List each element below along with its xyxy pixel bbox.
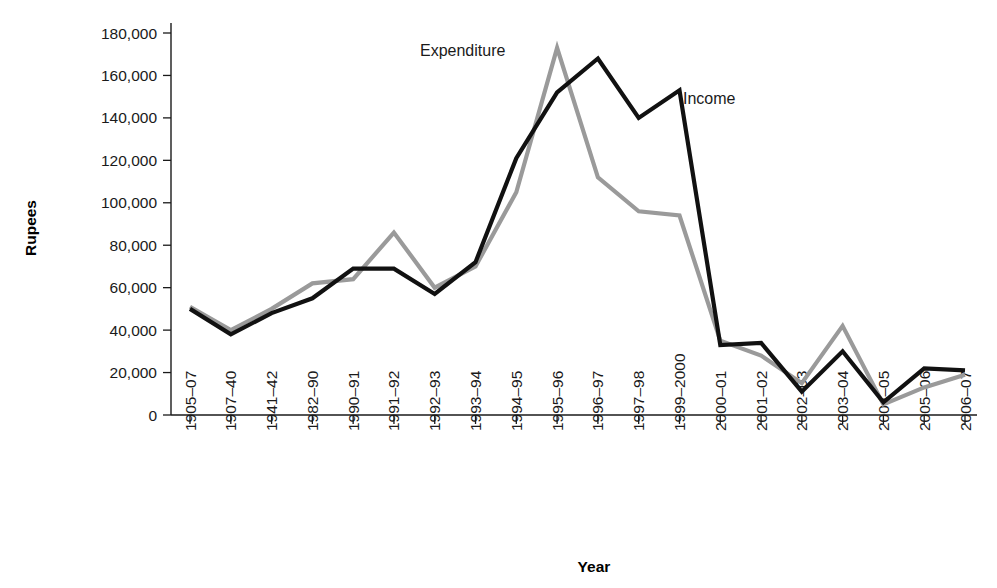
x-tick-label: 1999–2000	[671, 353, 688, 431]
x-tick-label: 1905–07	[182, 371, 199, 431]
y-tick-label: 120,000	[101, 152, 157, 169]
chart-canvas: 020,00040,00060,00080,000100,000120,0001…	[0, 0, 997, 588]
x-axis: 1905–071907–401941–421982–901990–911991–…	[171, 353, 977, 431]
x-tick-label: 1994–95	[508, 371, 525, 431]
x-tick-label: 1991–92	[385, 371, 402, 431]
y-tick-label: 20,000	[110, 364, 158, 381]
x-tick-label: 2003–04	[834, 370, 851, 431]
y-tick-label: 40,000	[110, 322, 158, 339]
y-tick-label: 100,000	[101, 194, 157, 211]
x-tick-label: 1992–93	[426, 371, 443, 431]
y-axis-title: Rupees	[22, 200, 39, 256]
y-tick-label: 160,000	[101, 67, 157, 84]
x-tick-label: 2001–02	[753, 371, 770, 431]
y-axis: 020,00040,00060,00080,000100,000120,0001…	[101, 23, 171, 424]
x-tick-label: 1996–97	[589, 371, 606, 431]
x-tick-label: 1995–96	[549, 371, 566, 431]
series-line-expenditure	[190, 48, 965, 405]
series-label-income: Income	[683, 90, 736, 107]
x-tick-label: 1997–98	[630, 371, 647, 431]
x-tick-label: 1941–42	[263, 371, 280, 431]
x-tick-label: 2000–01	[712, 371, 729, 431]
line-chart: 020,00040,00060,00080,000100,000120,0001…	[0, 0, 997, 588]
x-tick-label: 2006–07	[957, 371, 974, 431]
y-tick-label: 60,000	[110, 279, 158, 296]
x-tick-label: 2005–06	[916, 371, 933, 431]
x-tick-label: 1993–94	[467, 370, 484, 431]
y-tick-label: 180,000	[101, 25, 157, 42]
y-tick-label: 140,000	[101, 109, 157, 126]
series-label-expenditure: Expenditure	[420, 42, 505, 59]
y-tick-label: 80,000	[110, 237, 158, 254]
x-tick-label: 1982–90	[304, 370, 321, 431]
series-lines	[190, 48, 965, 405]
x-axis-title: Year	[578, 558, 611, 575]
x-tick-label: 1907–40	[222, 370, 239, 431]
x-tick-label: 1990–91	[345, 371, 362, 431]
y-tick-label: 0	[148, 407, 157, 424]
